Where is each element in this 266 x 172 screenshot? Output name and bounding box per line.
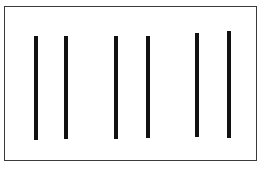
- vertical-lines-figure: [0, 0, 266, 172]
